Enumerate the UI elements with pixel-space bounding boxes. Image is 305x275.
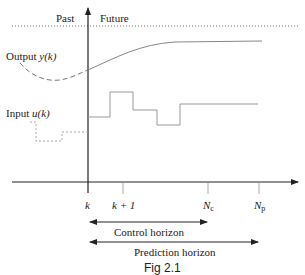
tick-label-np: Np bbox=[254, 200, 265, 213]
tick-label-k: k bbox=[85, 200, 90, 211]
tick-label-nc-sub: c bbox=[210, 204, 214, 213]
input-label-text: Input bbox=[6, 107, 32, 119]
prediction-horizon-label: Prediction horizon bbox=[134, 247, 216, 258]
input-future-signal bbox=[88, 92, 258, 125]
tick-label-k1: k + 1 bbox=[112, 200, 135, 211]
past-label: Past bbox=[56, 13, 74, 24]
tick-label-nc: Nc bbox=[203, 200, 214, 213]
tick-label-np-sub: p bbox=[261, 204, 265, 213]
output-label: Output y(k) bbox=[6, 51, 56, 62]
input-label: Input u(k) bbox=[6, 108, 50, 119]
control-horizon-label: Control horizon bbox=[114, 227, 184, 238]
output-label-arg: (k) bbox=[44, 50, 56, 62]
figure-caption: Fig 2.1 bbox=[144, 262, 181, 274]
future-label: Future bbox=[100, 13, 129, 24]
input-label-arg: (k) bbox=[37, 107, 49, 119]
output-label-text: Output bbox=[6, 50, 39, 62]
input-past-signal bbox=[30, 122, 88, 141]
output-predicted-curve bbox=[88, 41, 262, 70]
output-past-curve bbox=[20, 63, 88, 80]
